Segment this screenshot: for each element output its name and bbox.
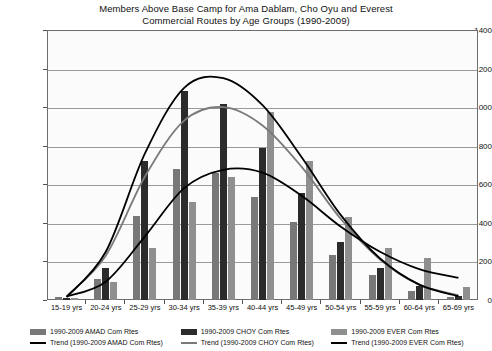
legend-swatch-icon bbox=[331, 329, 347, 335]
bar bbox=[369, 275, 376, 300]
bar bbox=[63, 298, 70, 300]
bar-group bbox=[204, 30, 243, 300]
bar bbox=[71, 298, 78, 300]
bar bbox=[377, 268, 384, 300]
bar bbox=[228, 177, 235, 300]
legend-trend-label: Trend (1990-2009 AMAD Com Rtes) bbox=[50, 339, 163, 346]
bar bbox=[141, 161, 148, 300]
bar-group bbox=[400, 30, 439, 300]
legend-line-icon bbox=[181, 342, 197, 344]
legend-trend-label: Trend (1990-2009 EVER Com Rtes) bbox=[351, 339, 463, 346]
bar bbox=[102, 268, 109, 300]
bar bbox=[455, 296, 462, 300]
chart-title-line-2: Commercial Routes by Age Groups (1990-20… bbox=[0, 15, 492, 27]
bar-group bbox=[47, 30, 86, 300]
bar bbox=[447, 297, 454, 300]
chart-container: Members Above Base Camp for Ama Dablam, … bbox=[0, 0, 492, 351]
legend-line-icon bbox=[30, 342, 46, 344]
bar-group bbox=[361, 30, 400, 300]
x-tick-label: 40-44 yrs bbox=[243, 303, 282, 312]
bar bbox=[212, 173, 219, 300]
bar-group bbox=[243, 30, 282, 300]
bar-group bbox=[439, 30, 478, 300]
x-tick-label: 55-59 yrs bbox=[361, 303, 400, 312]
bar bbox=[463, 287, 470, 301]
bar bbox=[251, 197, 258, 300]
bar bbox=[94, 279, 101, 300]
x-tick-label: 15-19 yrs bbox=[47, 303, 86, 312]
bar bbox=[149, 248, 156, 300]
x-tick-label: 20-24 yrs bbox=[86, 303, 125, 312]
legend-trend-label: Trend (1990-2009 CHOY Com Rtes) bbox=[201, 339, 314, 346]
legend-column: 1990-2009 CHOY Com RtesTrend (1990-2009 … bbox=[181, 326, 332, 348]
bar bbox=[337, 242, 344, 300]
legend-item-trend: Trend (1990-2009 CHOY Com Rtes) bbox=[181, 337, 332, 348]
bar bbox=[306, 161, 313, 300]
legend-column: 1990-2009 AMAD Com RtesTrend (1990-2009 … bbox=[30, 326, 181, 348]
x-tick-label: 45-49 yrs bbox=[282, 303, 321, 312]
bars-layer bbox=[47, 30, 478, 300]
legend-label: 1990-2009 AMAD Com Rtes bbox=[50, 328, 138, 335]
x-axis-labels: 15-19 yrs20-24 yrs25-29 yrs30-34 yrs35-3… bbox=[47, 303, 478, 312]
legend-item-trend: Trend (1990-2009 AMAD Com Rtes) bbox=[30, 337, 181, 348]
legend-item-series: 1990-2009 EVER Com Rtes bbox=[331, 326, 482, 337]
chart-legend: 1990-2009 AMAD Com RtesTrend (1990-2009 … bbox=[30, 326, 482, 348]
bar-group bbox=[321, 30, 360, 300]
bar bbox=[298, 193, 305, 300]
bar bbox=[345, 217, 352, 300]
bar bbox=[220, 104, 227, 300]
bar bbox=[133, 216, 140, 300]
legend-swatch-icon bbox=[181, 329, 197, 335]
legend-label: 1990-2009 EVER Com Rtes bbox=[351, 328, 439, 335]
legend-label: 1990-2009 CHOY Com Rtes bbox=[201, 328, 290, 335]
legend-item-series: 1990-2009 CHOY Com Rtes bbox=[181, 326, 332, 337]
bar-group bbox=[86, 30, 125, 300]
bar-group bbox=[165, 30, 204, 300]
x-tick-label: 60-64 yrs bbox=[400, 303, 439, 312]
bar bbox=[173, 169, 180, 300]
bar bbox=[408, 291, 415, 300]
bar bbox=[290, 222, 297, 300]
chart-title-line-1: Members Above Base Camp for Ama Dablam, … bbox=[0, 3, 492, 15]
x-tick-label: 50-54 yrs bbox=[321, 303, 360, 312]
bar bbox=[267, 112, 274, 300]
legend-swatch-icon bbox=[30, 329, 46, 335]
x-tick-label: 35-39 yrs bbox=[204, 303, 243, 312]
legend-line-icon bbox=[331, 342, 347, 344]
bar bbox=[385, 248, 392, 300]
y-tick-mark bbox=[43, 300, 47, 301]
bar bbox=[189, 202, 196, 300]
bar bbox=[259, 148, 266, 300]
x-tick-label: 25-29 yrs bbox=[125, 303, 164, 312]
bar-group bbox=[282, 30, 321, 300]
bar-group bbox=[125, 30, 164, 300]
legend-item-series: 1990-2009 AMAD Com Rtes bbox=[30, 326, 181, 337]
legend-column: 1990-2009 EVER Com RtesTrend (1990-2009 … bbox=[331, 326, 482, 348]
chart-title: Members Above Base Camp for Ama Dablam, … bbox=[0, 3, 492, 27]
bar bbox=[55, 297, 62, 300]
bar bbox=[181, 91, 188, 300]
legend-item-trend: Trend (1990-2009 EVER Com Rtes) bbox=[331, 337, 482, 348]
bar bbox=[416, 286, 423, 300]
bar bbox=[329, 255, 336, 300]
x-tick-label: 30-34 yrs bbox=[165, 303, 204, 312]
x-tick-label: 65-69 yrs bbox=[439, 303, 478, 312]
bar bbox=[424, 258, 431, 300]
bar bbox=[110, 282, 117, 300]
